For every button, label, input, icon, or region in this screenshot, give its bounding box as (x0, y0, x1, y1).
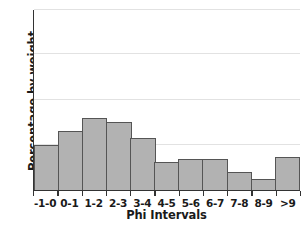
xtick-7-8 (227, 191, 228, 196)
xtick-label-5-6: 5-6 (182, 197, 200, 209)
x-axis-cell-2-3: 2-3 (106, 191, 130, 207)
x-axis-cell-4-5: 4-5 (154, 191, 178, 207)
xtick--1-0 (33, 191, 34, 196)
xtick-8-9 (251, 191, 252, 196)
x-axis-cell-6-7: 6-7 (203, 191, 227, 207)
bar-3-4[interactable] (130, 138, 155, 190)
x-axis-cell-1-2: 1-2 (82, 191, 106, 207)
x-axis-cell-0-1: 0-1 (57, 191, 81, 207)
bar-chart: Percentage by weight 0 10 20 30 40 -1-00… (0, 0, 302, 226)
bar-7-8[interactable] (227, 172, 252, 190)
bar-series (34, 10, 300, 190)
xtick-0-1 (57, 191, 58, 196)
xtick-label-1-2: 1-2 (85, 197, 103, 209)
plot-area: 0 10 20 30 40 (33, 10, 300, 191)
bar-8-9[interactable] (251, 179, 276, 190)
xtick-1-2 (82, 191, 83, 196)
xtick-label-4-5: 4-5 (157, 197, 175, 209)
x-axis-cell-7-8: 7-8 (227, 191, 251, 207)
bar->9[interactable] (275, 157, 300, 190)
xtick-label-0-1: 0-1 (60, 197, 78, 209)
x-axis-cell--1-0: -1-0 (33, 191, 57, 207)
xtick-label-2-3: 2-3 (109, 197, 127, 209)
xtick-2-3 (106, 191, 107, 196)
bar-6-7[interactable] (202, 159, 227, 190)
xtick-6-7 (203, 191, 204, 196)
xtick-5-6 (179, 191, 180, 196)
x-axis-cell-8-9: 8-9 (251, 191, 275, 207)
bar-1-2[interactable] (82, 118, 107, 190)
bar--1-0[interactable] (34, 145, 59, 190)
x-axis-cell->9: >9 (276, 191, 300, 207)
xtick-4-5 (154, 191, 155, 196)
x-axis-cell-5-6: 5-6 (179, 191, 203, 207)
xtick-3-4 (130, 191, 131, 196)
bar-2-3[interactable] (106, 122, 131, 190)
bar-4-5[interactable] (154, 162, 179, 191)
x-axis-cell-3-4: 3-4 (130, 191, 154, 207)
xtick->9 (276, 191, 277, 196)
bar-5-6[interactable] (178, 159, 203, 190)
xtick-label-7-8: 7-8 (230, 197, 248, 209)
xtick-label->9: >9 (280, 197, 296, 209)
bar-0-1[interactable] (58, 131, 83, 190)
x-axis-title: Phi Intervals (33, 208, 300, 222)
xtick-label-6-7: 6-7 (206, 197, 224, 209)
xtick-label-3-4: 3-4 (133, 197, 151, 209)
xtick-label-8-9: 8-9 (254, 197, 272, 209)
xtick-end (300, 191, 301, 196)
xtick-label--1-0: -1-0 (34, 197, 56, 209)
x-axis: -1-00-11-22-33-44-55-66-77-88-9>9 (33, 191, 300, 207)
